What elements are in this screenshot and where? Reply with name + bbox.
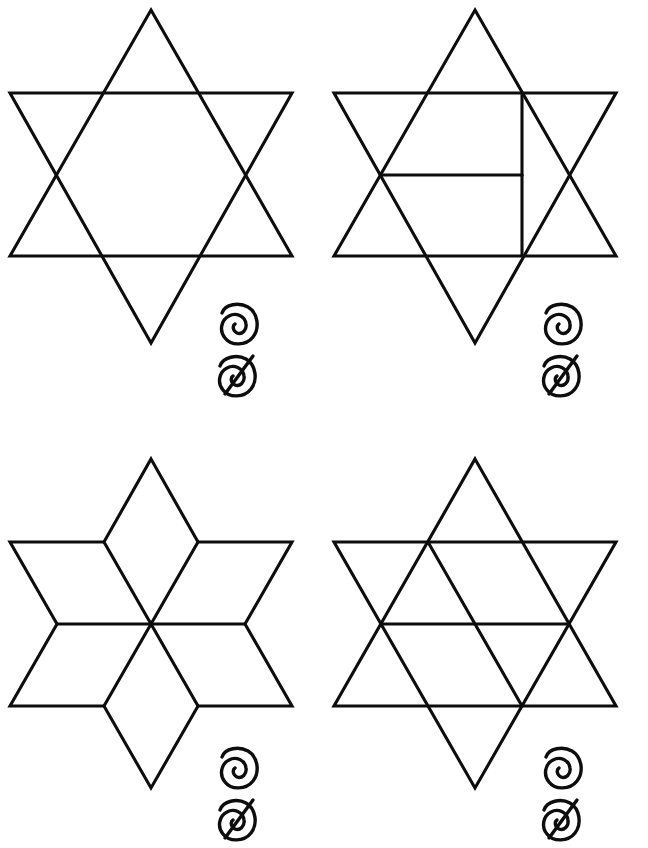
glyph-group-2 <box>536 300 592 404</box>
spoke-upper-right <box>151 542 198 624</box>
glyph-group-1 <box>212 300 268 404</box>
spiral-icon <box>536 300 588 348</box>
slash-stroke <box>225 356 253 394</box>
spiral-icon <box>536 744 588 792</box>
worksheet-page <box>0 0 648 848</box>
spiral-slashed-icon <box>212 350 264 398</box>
figure-cell-top-right[interactable] <box>324 0 648 424</box>
slash-stroke <box>549 356 577 394</box>
spoke-lower-left <box>104 624 151 706</box>
figure-cell-bottom-right[interactable] <box>324 424 648 848</box>
upward-triangle <box>334 10 616 256</box>
figure-cell-top-left[interactable] <box>0 0 324 424</box>
spiral-icon <box>212 744 264 792</box>
spoke-lower-right <box>151 624 198 706</box>
spiral-slashed-icon <box>212 794 264 842</box>
hexagram-figure-4 <box>324 424 648 848</box>
figure-cell-bottom-left[interactable] <box>0 424 324 848</box>
glyph-group-4 <box>536 744 592 848</box>
spiral-slashed-icon <box>536 794 588 842</box>
spiral-icon <box>212 300 264 348</box>
hexagram-figure-2 <box>324 0 648 424</box>
upward-triangle <box>334 459 616 706</box>
hexagram-figure-1 <box>0 0 324 424</box>
slash-stroke <box>225 800 253 838</box>
spoke-upper-left <box>104 542 151 624</box>
glyph-group-3 <box>212 744 268 848</box>
slash-stroke <box>549 800 577 838</box>
hexagram-figure-3 <box>0 424 324 848</box>
spiral-slashed-icon <box>536 350 588 398</box>
upward-triangle <box>10 10 292 256</box>
